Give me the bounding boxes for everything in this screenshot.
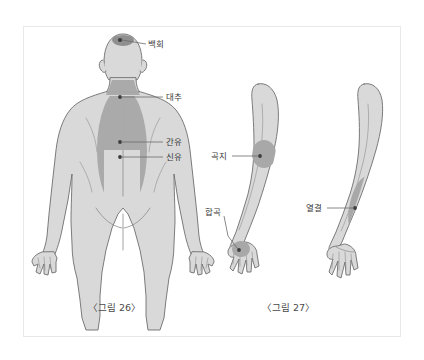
label-baekhoe: 백회 [148,40,164,49]
label-ganyu: 간유 [166,138,182,147]
caption-figure-27: 〈그림 27〉 [262,303,315,313]
caption-figure-26: 〈그림 26〉 [88,303,141,313]
figure-frame-border [23,26,401,337]
label-daechu: 대추 [166,93,182,102]
label-gokji: 곡지 [211,152,227,161]
label-sinyu: 신유 [166,153,182,162]
figure-page: 백회 대추 간유 신유 곡지 합곡 열결 〈그림 26〉 〈그림 27〉 [0,0,424,360]
label-hapgok: 합곡 [205,208,221,217]
label-yeolgyeol: 열결 [306,204,322,213]
